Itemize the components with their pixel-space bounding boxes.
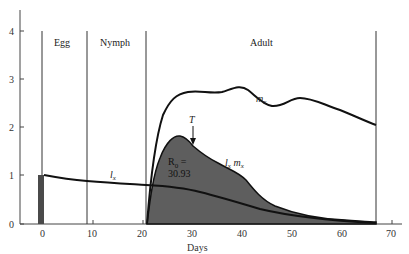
egg-bar bbox=[38, 175, 44, 224]
stage-label-nymph: Nymph bbox=[100, 37, 130, 48]
life-table-chart: 0 1 2 3 4 0 10 20 30 40 50 60 70 Days Eg… bbox=[0, 0, 409, 254]
x-tick-60: 60 bbox=[337, 228, 347, 239]
lx-label: lx bbox=[110, 169, 117, 182]
x-tick-10: 10 bbox=[87, 228, 97, 239]
x-tick-70: 70 bbox=[386, 228, 396, 239]
y-tick-0: 0 bbox=[9, 219, 14, 230]
generation-time-label: T bbox=[189, 114, 196, 125]
x-tick-40: 40 bbox=[237, 228, 247, 239]
y-tick-2: 2 bbox=[9, 122, 14, 133]
r0-value: 30.93 bbox=[168, 168, 191, 179]
y-tick-1: 1 bbox=[9, 170, 14, 181]
lxmx-area bbox=[147, 136, 376, 224]
x-tick-20: 20 bbox=[137, 228, 147, 239]
mx-label: mx bbox=[256, 93, 267, 106]
y-tick-3: 3 bbox=[9, 74, 14, 85]
lxmx-label: lx mx bbox=[225, 157, 245, 170]
y-tick-4: 4 bbox=[9, 26, 14, 37]
x-axis: 0 10 20 30 40 50 60 70 Days bbox=[20, 220, 402, 253]
x-tick-50: 50 bbox=[287, 228, 297, 239]
x-axis-title: Days bbox=[187, 242, 208, 253]
x-tick-0: 0 bbox=[40, 228, 45, 239]
stage-label-egg: Egg bbox=[54, 37, 70, 48]
x-tick-30: 30 bbox=[187, 228, 197, 239]
y-axis: 0 1 2 3 4 bbox=[9, 10, 24, 230]
stage-label-adult: Adult bbox=[250, 37, 273, 48]
